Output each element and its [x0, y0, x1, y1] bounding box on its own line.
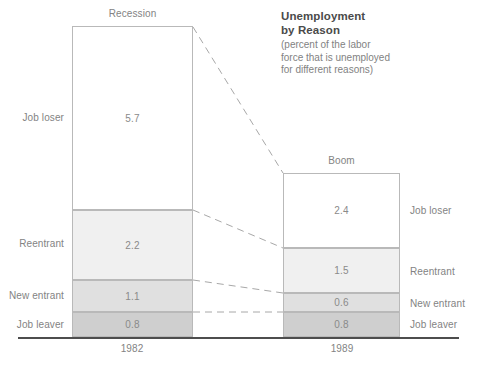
bar-segment-new-entrant-1982[interactable]: 1.1 [72, 280, 193, 312]
label-left-new-entrant: New entrant [0, 290, 64, 301]
bar-segment-job-loser-1982[interactable]: 5.7 [72, 26, 193, 210]
bar-value-job-loser-1982: 5.7 [125, 113, 140, 124]
chart-title-line-1: Unemployment [281, 10, 471, 24]
bar-value-job-loser-1989: 2.4 [334, 205, 349, 216]
axis-tick-1982: 1982 [82, 343, 182, 354]
bar-value-new-entrant-1982: 1.1 [125, 291, 140, 302]
group-caption-boom: Boom [283, 155, 400, 166]
bar-segment-job-loser-1989[interactable]: 2.4 [283, 173, 400, 248]
bar-value-new-entrant-1989: 0.6 [334, 297, 349, 308]
chart-subtitle: (percent of the labor force that is unem… [281, 39, 471, 77]
bar-segment-job-leaver-1989[interactable]: 0.8 [283, 312, 400, 337]
chart-title-block: Unemployment by Reason (percent of the l… [281, 10, 471, 77]
label-right-new-entrant: New entrant [410, 298, 478, 309]
chart-subtitle-line-2: force that is unemployed [281, 52, 471, 65]
stacked-bar-1982: 5.7 2.2 1.1 0.8 [72, 26, 193, 337]
chart-title-line-2: by Reason [281, 24, 471, 38]
chart-subtitle-line-1: (percent of the labor [281, 39, 471, 52]
bar-segment-reentrant-1989[interactable]: 1.5 [283, 248, 400, 293]
axis-tick-1989: 1989 [292, 343, 392, 354]
label-left-job-loser: Job loser [0, 112, 64, 123]
connector-job-loser-top [193, 27, 283, 173]
label-left-job-leaver: Job leaver [0, 319, 64, 330]
connector-reentrant-top [193, 210, 283, 248]
bar-value-job-leaver-1982: 0.8 [125, 319, 140, 330]
label-right-job-loser: Job loser [410, 205, 478, 216]
label-right-job-leaver: Job leaver [410, 319, 478, 330]
bar-value-reentrant-1989: 1.5 [334, 265, 349, 276]
chart-figure: Unemployment by Reason (percent of the l… [0, 0, 478, 365]
bar-segment-new-entrant-1989[interactable]: 0.6 [283, 293, 400, 312]
bar-value-job-leaver-1989: 0.8 [334, 319, 349, 330]
axis-baseline [18, 337, 459, 339]
group-caption-recession: Recession [72, 8, 193, 19]
chart-subtitle-line-3: for different reasons) [281, 64, 471, 77]
label-right-reentrant: Reentrant [410, 266, 478, 277]
label-left-reentrant: Reentrant [0, 238, 64, 249]
bar-segment-job-leaver-1982[interactable]: 0.8 [72, 312, 193, 337]
bar-value-reentrant-1982: 2.2 [125, 240, 140, 251]
bar-segment-reentrant-1982[interactable]: 2.2 [72, 210, 193, 280]
connector-new-entrant-top [193, 280, 283, 293]
chart-title: Unemployment by Reason [281, 10, 471, 37]
stacked-bar-1989: 2.4 1.5 0.6 0.8 [283, 173, 400, 337]
